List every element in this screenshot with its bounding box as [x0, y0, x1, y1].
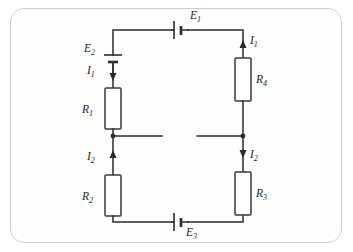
current-arrow-I2-right — [240, 150, 247, 158]
label-R1: R1 — [81, 103, 93, 118]
label-I2-right: I2 — [249, 148, 258, 163]
label-R4: R4 — [255, 73, 267, 88]
resistor-R3 — [235, 172, 251, 215]
current-arrow-I2-right-head — [240, 150, 247, 158]
wire-top-branch — [113, 30, 243, 55]
wire-top-right — [188, 30, 243, 42]
label-E3: E3 — [185, 226, 197, 241]
label-E1: E1 — [189, 9, 201, 24]
battery-E1 — [172, 21, 188, 39]
wire-bottom-branch — [113, 216, 243, 222]
diagram-canvas: E1 E2 I1 R1 I2 — [0, 0, 353, 252]
label-R2: R2 — [81, 190, 93, 205]
current-arrow-I1-left — [110, 64, 117, 81]
resistor-R2 — [105, 175, 121, 216]
label-R3: R3 — [255, 187, 267, 202]
wire-bottom-left — [113, 216, 172, 222]
node-left — [111, 134, 162, 139]
label-I2-left: I2 — [86, 150, 95, 165]
label-I1-right: I1 — [249, 34, 258, 49]
resistor-R4 — [235, 58, 251, 101]
resistor-R1 — [105, 88, 121, 129]
label-I1-left: I1 — [86, 64, 95, 79]
current-arrow-I1-right-head — [240, 40, 247, 48]
wire-top-left — [113, 30, 172, 55]
wire-bottom-right — [188, 216, 243, 222]
current-arrow-I1-left-head — [110, 73, 117, 81]
label-E2: E2 — [83, 42, 95, 57]
current-arrow-I2-left — [110, 150, 117, 158]
current-arrow-I1-right — [240, 40, 247, 58]
circuit-schematic: E1 E2 I1 R1 I2 — [0, 0, 353, 252]
current-arrow-I2-left-head — [110, 150, 117, 158]
node-right — [197, 134, 245, 139]
